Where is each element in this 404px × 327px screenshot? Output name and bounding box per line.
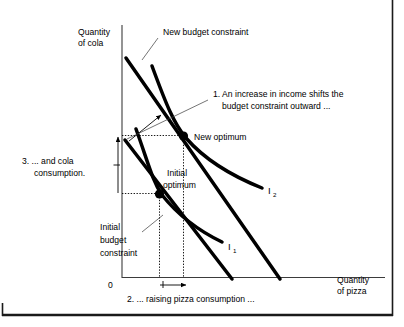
initial-optimum-dot — [155, 189, 164, 198]
callout-3-line2: consumption. — [34, 168, 85, 178]
initial-budget-constraint-label-line1: Initial — [100, 222, 120, 232]
leader-new-budget-constraint — [142, 38, 158, 60]
x-axis-label-line1: Quantity — [337, 275, 370, 285]
initial-budget-constraint-line — [125, 140, 232, 279]
initial-budget-constraint-label-line3: constraint — [100, 248, 138, 258]
curve-label-i1: I — [228, 241, 231, 252]
callout-1-line2: budget constraint outward ... — [222, 101, 330, 111]
curve-label-i2: I — [268, 185, 271, 196]
new-optimum-label: New optimum — [194, 132, 247, 142]
initial-optimum-label-line1: Initial — [167, 168, 187, 178]
y-axis-label-line2: of cola — [78, 38, 104, 48]
new-budget-constraint-label: New budget constraint — [163, 27, 249, 37]
initial-optimum-label-line2: optimum — [163, 180, 196, 190]
budget-shift-arrow — [129, 115, 161, 141]
curve-label-i1-subscript: 1 — [233, 247, 237, 254]
y-axis-label-line1: Quantity — [78, 27, 111, 37]
income-effect-diagram: Quantity of cola Quantity of pizza 0 New… — [0, 0, 404, 327]
callout-2-label: 2. ... raising pizza consumption ... — [127, 294, 255, 304]
callout-3-line1: 3. ... and cola — [22, 156, 74, 166]
callout-1-line1: 1. An increase in income shifts the — [213, 89, 344, 99]
initial-budget-constraint-label-line2: budget — [100, 235, 127, 245]
origin-label: 0 — [108, 280, 113, 290]
new-optimum-dot — [179, 131, 188, 140]
curve-label-i2-subscript: 2 — [273, 191, 277, 198]
x-axis-label-line2: of pizza — [337, 286, 367, 296]
figure-container: Quantity of cola Quantity of pizza 0 New… — [0, 0, 404, 327]
